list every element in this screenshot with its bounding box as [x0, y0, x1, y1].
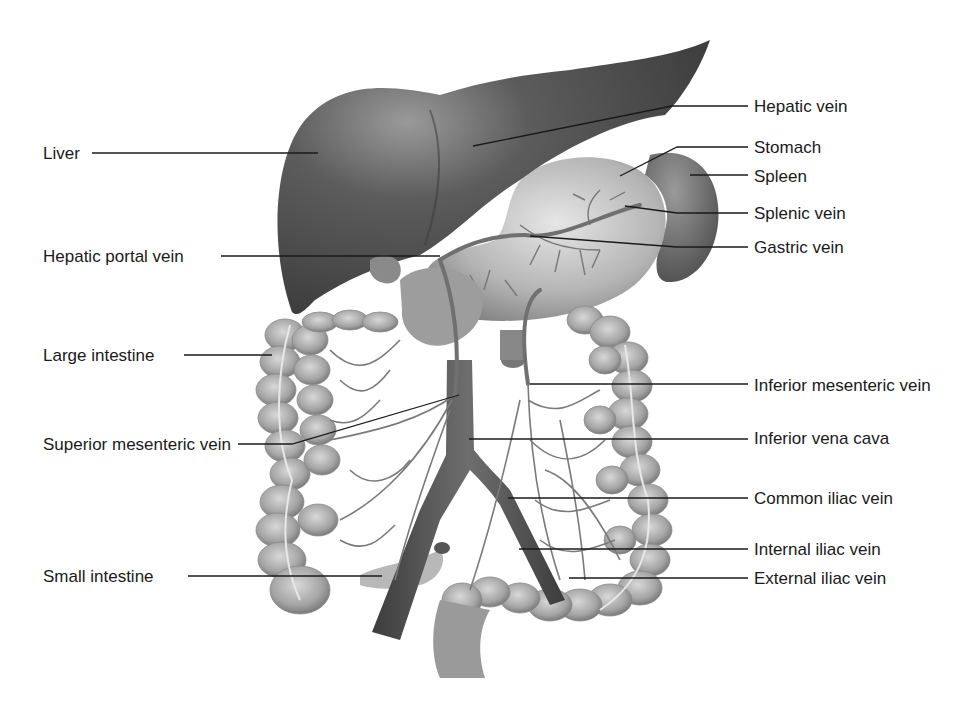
label-hepatic-vein: Hepatic vein: [754, 96, 848, 117]
label-internal-iliac-vein: Internal iliac vein: [754, 539, 881, 560]
label-spleen: Spleen: [754, 166, 807, 187]
rectum-shape: [433, 600, 490, 678]
label-superior-mesenteric-vein: Superior mesenteric vein: [43, 434, 243, 455]
label-external-iliac-vein: External iliac vein: [754, 568, 886, 589]
label-stomach: Stomach: [754, 137, 821, 158]
label-large-intestine: Large intestine: [43, 345, 155, 366]
label-small-intestine: Small intestine: [43, 566, 154, 587]
label-splenic-vein: Splenic vein: [754, 203, 846, 224]
duodenum-shape: [400, 268, 483, 346]
label-gastric-vein: Gastric vein: [754, 237, 844, 258]
label-common-iliac-vein: Common iliac vein: [754, 488, 893, 509]
label-inferior-vena-cava: Inferior vena cava: [754, 428, 889, 449]
label-liver: Liver: [43, 143, 80, 164]
label-hepatic-portal-vein: Hepatic portal vein: [43, 246, 184, 267]
label-inferior-mesenteric-vein: Inferior mesenteric vein: [754, 375, 934, 396]
